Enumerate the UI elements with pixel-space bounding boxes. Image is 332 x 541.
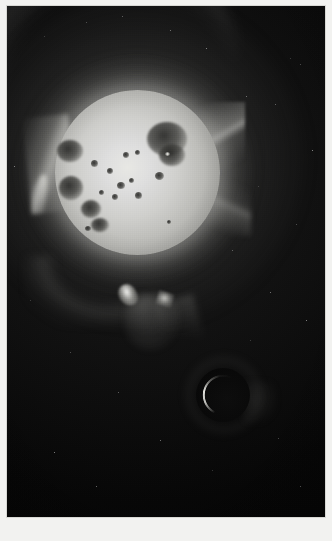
sunspot [91, 160, 98, 167]
sunspot [85, 226, 91, 231]
sunspot [81, 200, 101, 218]
facula-bright-point [165, 152, 170, 156]
sunspot [91, 218, 109, 232]
sunspot [99, 190, 104, 195]
sunspot [155, 172, 164, 180]
sunspot [57, 140, 83, 162]
sunspot [117, 182, 125, 189]
caption-strip [7, 524, 325, 538]
space-background [7, 6, 325, 517]
sunspot [107, 168, 113, 174]
sunspot [59, 176, 83, 200]
eclipsing-dark-body [196, 368, 250, 422]
photograph-frame [6, 5, 326, 518]
sunspot [123, 152, 129, 158]
sunspot [112, 194, 118, 200]
sunspot [167, 220, 171, 224]
sunspot [135, 150, 140, 155]
sunspot [159, 144, 185, 166]
solar-disk [55, 90, 220, 255]
sunspot [129, 178, 134, 183]
astronomy-photo-figure [0, 0, 332, 541]
limb-darkening-overlay [55, 90, 220, 255]
eclipse-crescent-rim [195, 367, 251, 423]
sunspot [135, 192, 142, 199]
